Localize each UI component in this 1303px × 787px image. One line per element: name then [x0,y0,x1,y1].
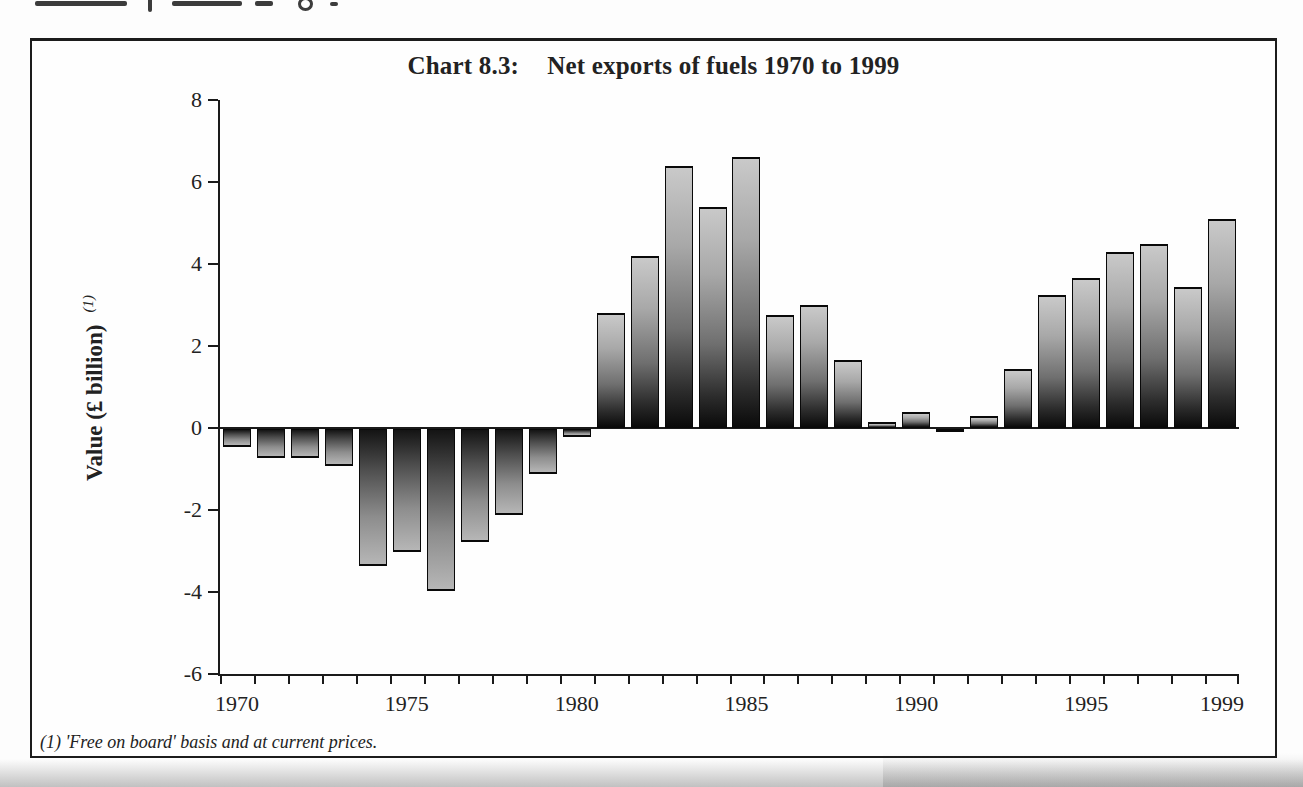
bar-1993 [1004,369,1032,428]
x-tick [1171,674,1173,684]
x-tick [1237,674,1239,684]
bar-1997 [1140,244,1168,429]
x-axis-line [218,674,1239,676]
y-tick-label: 6 [122,169,202,195]
x-tick [560,674,562,684]
x-tick [322,674,324,684]
y-tick-label: 4 [122,251,202,277]
y-tick-label: -4 [122,579,202,605]
y-tick-label: 0 [122,415,202,441]
bar-1975 [393,429,421,552]
x-tick [696,674,698,684]
x-tick [865,674,867,684]
x-tick [1205,674,1207,684]
chart-footnote: (1) 'Free on board' basis and at current… [40,732,377,753]
bar-1979 [529,429,557,474]
x-tick [797,674,799,684]
x-tick [526,674,528,684]
y-axis-title-label: Value (£ billion) [82,325,107,481]
y-tick [208,181,218,183]
x-tick-label-1985: 1985 [724,691,768,717]
x-tick-label-1999: 1999 [1200,691,1244,717]
y-tick [208,427,218,429]
bar-1991 [936,429,964,432]
x-tick [492,674,494,684]
bar-1980 [563,429,591,437]
y-tick [208,345,218,347]
bar-1984 [699,207,727,428]
bar-1992 [970,416,998,428]
x-tick [458,674,460,684]
x-tick [662,674,664,684]
y-tick-label: -2 [122,497,202,523]
bar-1986 [766,315,794,428]
bar-1973 [325,429,353,466]
y-tick [208,509,218,511]
x-tick [594,674,596,684]
bar-1985 [732,157,760,428]
bar-1982 [631,256,659,428]
x-tick [390,674,392,684]
bar-1972 [291,429,319,458]
plot-area: 86420-2-4-61970197519801985199019951999 [220,100,1239,674]
y-tick [208,99,218,101]
x-tick [1001,674,1003,684]
bar-1978 [495,429,523,515]
x-tick [356,674,358,684]
bar-1995 [1072,278,1100,428]
x-tick [1137,674,1139,684]
y-tick [208,591,218,593]
y-tick-label: -6 [122,661,202,687]
y-tick [208,673,218,675]
chart-title: Chart 8.3:Net exports of fuels 1970 to 1… [32,52,1275,80]
page-edge-text-remnant [0,0,420,14]
bar-1976 [427,429,455,591]
x-tick [288,674,290,684]
y-tick-label: 2 [122,333,202,359]
scan-shadow-right [883,753,1303,787]
bar-1983 [665,166,693,428]
x-tick [254,674,256,684]
x-tick [933,674,935,684]
x-tick [1035,674,1037,684]
y-tick [208,263,218,265]
x-tick-label-1980: 1980 [555,691,599,717]
bar-1981 [597,313,625,428]
x-tick [730,674,732,684]
x-tick [899,674,901,684]
bar-1971 [257,429,285,458]
chart-title-text: Net exports of fuels 1970 to 1999 [547,52,899,79]
x-tick-label-1995: 1995 [1064,691,1108,717]
x-tick [424,674,426,684]
x-tick [628,674,630,684]
bar-1987 [800,305,828,428]
chart-frame: Chart 8.3:Net exports of fuels 1970 to 1… [30,38,1277,758]
bar-1998 [1174,287,1202,428]
x-tick-label-1970: 1970 [215,691,259,717]
bar-1989 [868,422,896,428]
bar-1994 [1038,295,1066,428]
bar-1970 [223,429,251,447]
x-tick [1069,674,1071,684]
bar-1977 [461,429,489,542]
y-axis-footnote-marker: (1) [80,295,96,313]
x-tick [831,674,833,684]
y-axis-line [218,100,220,674]
bar-1996 [1106,252,1134,428]
x-tick [967,674,969,684]
bar-1988 [834,360,862,428]
x-tick [763,674,765,684]
bar-1990 [902,412,930,428]
x-tick [220,674,222,684]
bar-1974 [359,429,387,566]
bar-1999 [1208,219,1236,428]
x-tick-label-1975: 1975 [385,691,429,717]
y-tick-label: 8 [122,87,202,113]
chart-title-prefix: Chart 8.3: [407,52,519,79]
x-tick [1103,674,1105,684]
x-tick-label-1990: 1990 [894,691,938,717]
